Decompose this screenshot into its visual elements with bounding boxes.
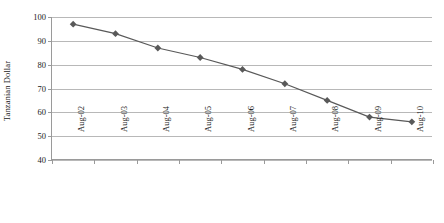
y-tick-label: 100	[18, 13, 46, 21]
y-tick-label: 40	[18, 156, 46, 164]
x-tick-mark	[264, 160, 265, 164]
x-tick-mark	[306, 160, 307, 164]
data-point-marker	[70, 21, 77, 28]
x-tick-label: Aug-08	[330, 106, 340, 166]
y-axis-title-label: Tanzanian Dollar	[2, 61, 12, 121]
y-tick-label: 60	[18, 108, 46, 116]
x-tick-mark	[391, 160, 392, 164]
x-tick-mark	[137, 160, 138, 164]
x-tick-label: Aug-10	[415, 106, 425, 166]
line-chart: Tanzanian Dollar 100908070605040 Aug-02A…	[0, 0, 444, 223]
x-tick-label: Aug-09	[373, 106, 383, 166]
data-point-marker	[281, 80, 288, 87]
x-tick-mark	[52, 160, 53, 164]
data-point-marker	[366, 114, 373, 121]
x-tick-mark	[179, 160, 180, 164]
y-tick-label: 70	[18, 85, 46, 93]
x-tick-label: Aug-03	[119, 106, 129, 166]
x-tick-mark	[348, 160, 349, 164]
x-tick-label: Aug-05	[203, 106, 213, 166]
data-point-marker	[112, 30, 119, 37]
x-tick-mark	[433, 160, 434, 164]
y-tick-label: 50	[18, 132, 46, 140]
x-tick-label: Aug-06	[246, 106, 256, 166]
x-tick-label: Aug-04	[161, 106, 171, 166]
x-tick-label: Aug-02	[76, 106, 86, 166]
data-point-marker	[197, 54, 204, 61]
y-axis-title: Tanzanian Dollar	[2, 0, 16, 36]
y-tick-label: 90	[18, 37, 46, 45]
x-tick-label: Aug-07	[288, 106, 298, 166]
y-tick-label: 80	[18, 61, 46, 69]
data-point-marker	[239, 66, 246, 73]
data-point-marker	[154, 45, 161, 52]
x-tick-mark	[94, 160, 95, 164]
x-tick-mark	[221, 160, 222, 164]
data-point-marker	[324, 97, 331, 104]
